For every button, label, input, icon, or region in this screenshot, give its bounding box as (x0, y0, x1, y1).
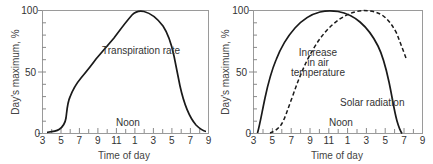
left-x-axis-label: Time of day (98, 150, 150, 161)
right-x-tick: 9 (307, 135, 313, 146)
right-x-tick: 5 (270, 135, 276, 146)
right-y-tick-100: 100 (232, 5, 249, 16)
left-x-tick: 7 (77, 135, 83, 146)
left-x-tick: 3 (40, 135, 46, 146)
right-x-ticks (263, 128, 413, 133)
right-x-tick: 9 (420, 135, 426, 146)
right-y-axis-label: Day's maximum, % (220, 29, 231, 114)
left-y-tick-100: 100 (21, 5, 38, 16)
right-x-tick: 7 (401, 135, 407, 146)
right-chart: 100 50 0 3 5 7 9 11 1 3 5 7 9 Time of da… (220, 5, 426, 161)
right-x-tick: 3 (364, 135, 370, 146)
left-x-tick-labels: 3 5 7 9 11 1 3 5 7 9 (40, 135, 212, 146)
left-x-tick: 7 (188, 135, 194, 146)
right-x-axis-label: Time of day (311, 150, 363, 161)
left-plot-frame (43, 11, 209, 134)
left-x-tick: 9 (206, 135, 212, 146)
left-x-tick: 1 (132, 135, 138, 146)
right-x-tick: 11 (324, 135, 335, 146)
left-y-tick-50: 50 (25, 67, 37, 78)
left-x-tick: 11 (111, 135, 122, 146)
left-x-tick: 5 (58, 135, 64, 146)
left-chart: 100 50 0 3 5 7 9 11 1 3 5 7 9 Time of da… (10, 5, 212, 161)
transpiration-rate-curve (47, 11, 206, 132)
right-x-tick: 1 (345, 135, 351, 146)
right-y-tick-50: 50 (236, 67, 248, 78)
air-temperature-label-line3: temperature (291, 67, 345, 78)
transpiration-rate-label: Transpiration rate (102, 45, 180, 56)
solar-radiation-label: Solar radiation (340, 97, 404, 108)
left-x-tick: 5 (169, 135, 175, 146)
figure: 100 50 0 3 5 7 9 11 1 3 5 7 9 Time of da… (0, 0, 433, 164)
right-x-tick: 7 (288, 135, 294, 146)
left-x-tick: 9 (95, 135, 101, 146)
left-x-tick: 3 (151, 135, 157, 146)
left-y-axis-label: Day's maximum, % (10, 29, 21, 114)
right-x-tick: 5 (382, 135, 388, 146)
left-x-ticks (52, 128, 200, 133)
right-x-tick: 3 (251, 135, 257, 146)
noon-label-left: Noon (116, 117, 140, 128)
right-x-tick-labels: 3 5 7 9 11 1 3 5 7 9 (251, 135, 426, 146)
noon-label-right: Noon (329, 117, 353, 128)
